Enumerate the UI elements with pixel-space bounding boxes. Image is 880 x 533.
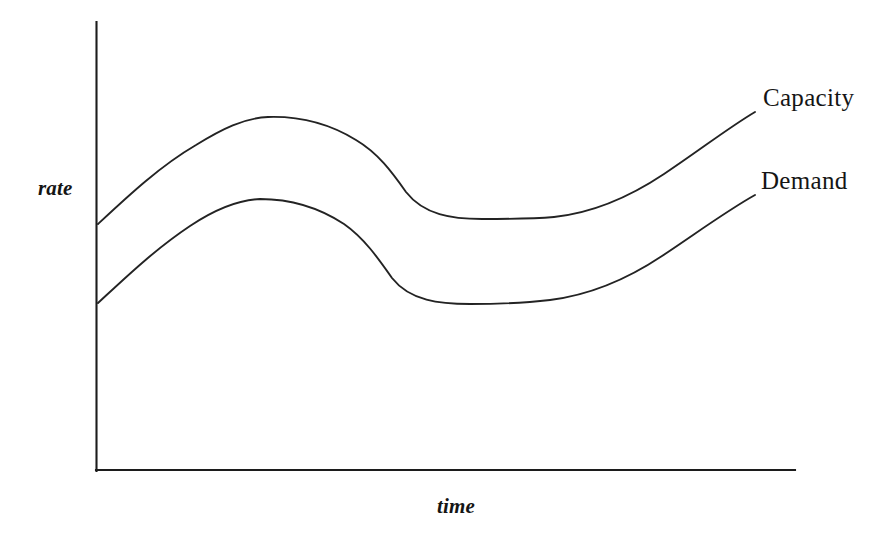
y-axis-title: rate: [38, 176, 73, 201]
demand-curve: [98, 195, 755, 304]
x-axis-title: time: [437, 494, 475, 519]
series-label-capacity: Capacity: [763, 84, 854, 112]
capacity-curve: [98, 112, 755, 224]
chart-canvas: [0, 0, 880, 533]
series-label-demand: Demand: [761, 167, 848, 195]
figure-root: rate time Capacity Demand: [0, 0, 880, 533]
